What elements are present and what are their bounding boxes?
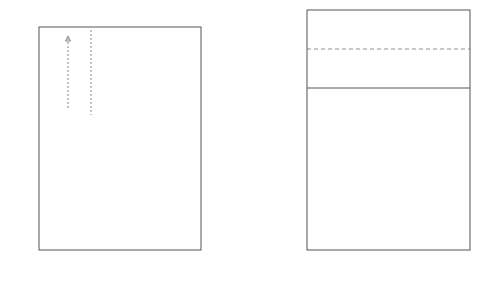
figure-canvas — [0, 0, 483, 304]
fig3-plot-frame — [39, 27, 201, 250]
fig4-chart — [307, 10, 470, 250]
fig4-plot-frame — [307, 10, 470, 250]
fig3-chart — [39, 27, 201, 250]
